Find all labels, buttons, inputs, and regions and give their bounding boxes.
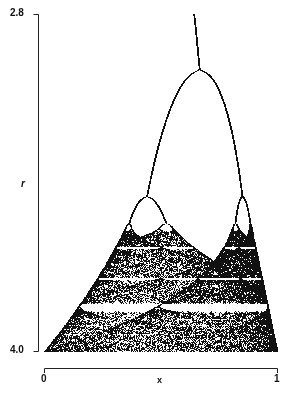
x-tick-left: 0 [41,374,47,384]
x-tick-right: 1 [274,374,280,384]
y-tick-bottom: 4.0 [10,345,24,355]
x-axis-label: x [157,375,162,385]
bifurcation-plot [0,0,287,394]
y-axis-label: r [21,178,25,189]
y-tick-top: 2.8 [10,8,24,18]
